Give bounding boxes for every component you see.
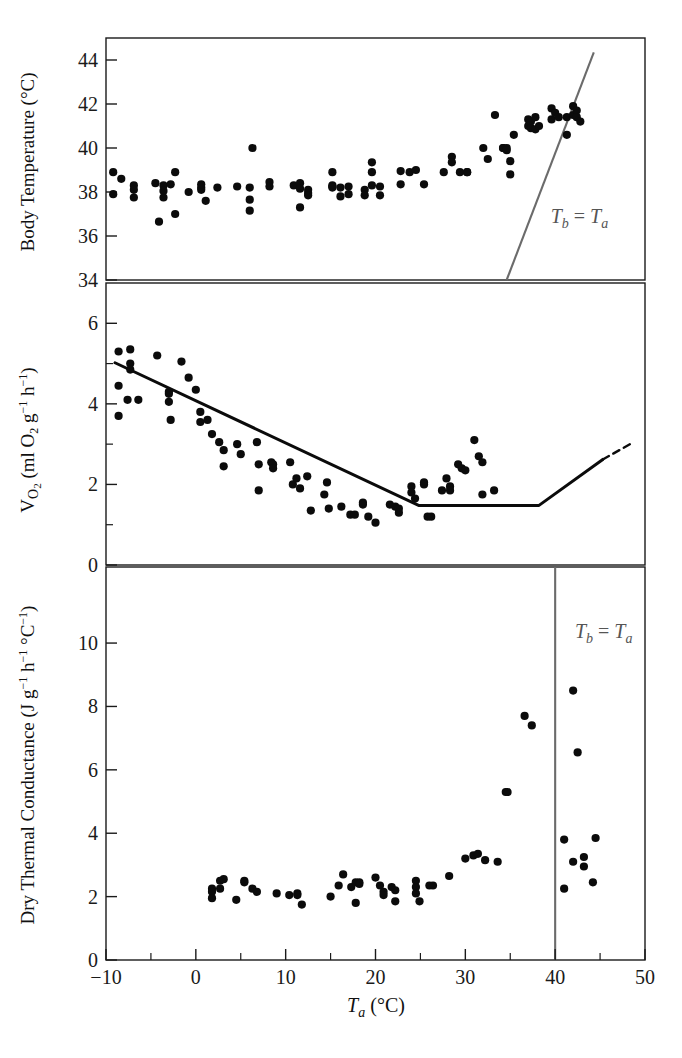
ylabel-dtc-h: h [17,662,38,677]
data-point [126,345,134,353]
data-point [246,196,254,204]
data-point [474,850,482,858]
data-point [196,408,204,416]
ylabel-dtc-gexp: −1 [16,677,30,690]
figure-root: 343638404244Tb = Ta 0246 0246810Tb = Ta … [0,0,682,1058]
data-point [481,856,489,864]
ylabel-vo2-unit-h: h [17,386,38,401]
data-point [202,197,210,205]
data-point [368,158,376,166]
data-point [151,179,159,187]
data-point [420,480,428,488]
data-point [265,182,273,190]
data-point [159,193,167,201]
data-point [208,894,216,902]
panel-body-temperature-ytick-label: 44 [78,49,98,71]
data-point [248,144,256,152]
data-point [368,181,376,189]
data-point [240,878,248,886]
data-point [442,474,450,482]
data-point [461,466,469,474]
data-point [456,168,464,176]
data-point [320,490,328,498]
data-point [361,191,369,199]
data-point [335,881,343,889]
data-point [503,146,511,154]
data-point [352,899,360,907]
xtick-label: 30 [455,966,475,988]
data-point [359,500,367,508]
data-point [167,180,175,188]
annot-sub-b: b [586,631,593,646]
data-point [273,889,281,897]
data-point [296,484,304,492]
data-point [114,347,122,355]
data-point [109,190,117,198]
panel-thermal-conductance-ytick-label: 4 [88,822,98,844]
data-point [591,834,599,842]
panel-thermal-conductance-ytick-label: 10 [78,632,98,654]
xtick-label: 50 [635,966,655,988]
data-point [233,440,241,448]
ylabel-dtc-main: Dry Thermal Conductance (J g [17,689,39,924]
data-point [253,438,261,446]
data-point [185,188,193,196]
data-point [292,474,300,482]
data-point [574,748,582,756]
annot-sub-a: a [625,631,632,646]
data-point [339,870,347,878]
panel-body-temperature-ytick-label: 38 [78,181,98,203]
data-point [351,511,359,519]
data-point [461,854,469,862]
data-point [134,396,142,404]
data-point [371,519,379,527]
annot-equals: = [569,205,590,227]
data-point [117,175,125,183]
data-point [165,390,173,398]
data-point [368,168,376,176]
panel-thermal-conductance-ytick-label: 6 [88,759,98,781]
data-point [307,507,315,515]
data-point [255,486,263,494]
data-point [411,494,419,502]
panel-body-temperature-ytick-label: 36 [78,225,98,247]
data-point [555,113,563,121]
data-point [371,874,379,882]
data-point [445,872,453,880]
data-point [379,891,387,899]
data-point [196,418,204,426]
data-point [576,118,584,126]
data-point [510,131,518,139]
ylabel-dtc-cexp: −1 [16,612,30,625]
data-point [415,897,423,905]
data-point [535,122,543,130]
data-point [253,888,261,896]
data-point [328,168,336,176]
data-point [197,180,205,188]
data-point [255,460,263,468]
data-point [220,462,228,470]
data-point [167,416,175,424]
data-point [171,168,179,176]
data-point [126,366,134,374]
data-point [528,721,536,729]
xtick-label: 40 [545,966,565,988]
ylabel-vo2-unit: (ml O [17,434,39,484]
ylabel-vo2-v: V [17,499,38,513]
data-point [192,386,200,394]
data-point [395,509,403,517]
data-point [506,157,514,165]
data-point [130,193,138,201]
data-point [563,131,571,139]
data-point [171,210,179,218]
data-point [569,687,577,695]
data-point [155,218,163,226]
data-point [216,885,224,893]
data-point [560,835,568,843]
panel-body-temperature-ytick-label: 34 [78,269,98,291]
data-point [397,180,405,188]
panel-thermal-conductance-ytick-label: 8 [88,695,98,717]
data-point [296,185,304,193]
data-point [303,472,311,480]
data-point [344,182,352,190]
